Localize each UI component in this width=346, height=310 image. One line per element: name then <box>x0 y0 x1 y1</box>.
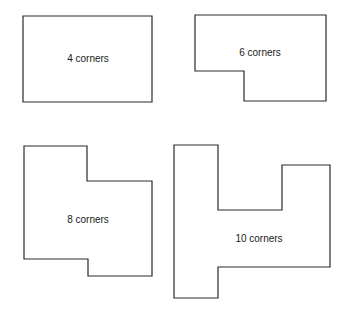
corners-diagram: 4 corners 6 corners 8 corners 10 corners <box>0 0 346 310</box>
shape-6-corners: 6 corners <box>195 15 326 101</box>
l-shape-outline <box>195 15 326 101</box>
h-shape-outline <box>174 145 330 298</box>
shape-label: 10 corners <box>235 233 282 244</box>
shape-label: 4 corners <box>67 53 109 64</box>
shape-label: 8 corners <box>67 214 109 225</box>
shape-8-corners: 8 corners <box>24 146 152 276</box>
shape-4-corners: 4 corners <box>23 16 152 102</box>
shape-label: 6 corners <box>239 47 281 58</box>
stepped-shape-outline <box>24 146 152 276</box>
shape-10-corners: 10 corners <box>174 145 330 298</box>
